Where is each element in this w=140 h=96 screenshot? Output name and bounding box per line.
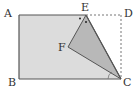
- fold-diagram: A B C D E F: [0, 0, 140, 96]
- angle-mark-dot-2: [85, 21, 87, 23]
- angle-mark-dot-1: [79, 18, 81, 20]
- label-f: F: [58, 41, 66, 54]
- label-a: A: [3, 7, 13, 20]
- label-e: E: [81, 1, 89, 14]
- label-b: B: [8, 76, 16, 89]
- label-d: D: [124, 7, 133, 20]
- label-c: C: [123, 76, 131, 89]
